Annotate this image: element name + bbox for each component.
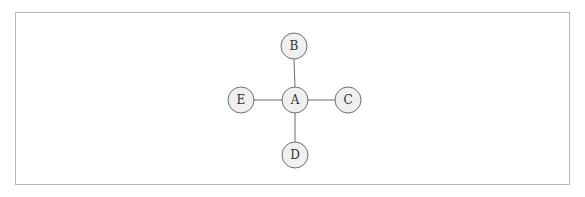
node-c: C: [335, 87, 361, 113]
node-a-label: A: [290, 93, 300, 107]
nodes: A B C D E: [228, 33, 361, 168]
node-b: B: [281, 33, 307, 59]
node-c-label: C: [343, 93, 352, 107]
node-e-label: E: [237, 93, 246, 107]
node-e: E: [228, 87, 254, 113]
edge-a-b: [294, 59, 295, 87]
graph-diagram: A B C D E: [0, 0, 585, 197]
node-d: D: [282, 142, 308, 168]
node-b-label: B: [290, 39, 299, 53]
node-d-label: D: [290, 148, 300, 162]
node-a: A: [282, 87, 308, 113]
